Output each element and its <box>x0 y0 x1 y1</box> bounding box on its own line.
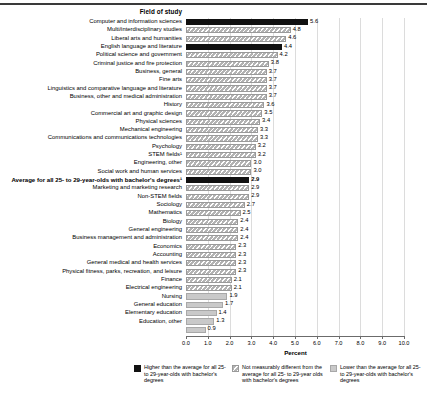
category-label: Engineering, other <box>0 159 182 167</box>
category-label: Social work and human services <box>0 168 182 176</box>
bar <box>186 85 267 91</box>
category-label: Finance <box>0 276 182 284</box>
bar <box>186 110 262 116</box>
gridline <box>295 18 296 336</box>
field-of-study-header: Field of study <box>0 8 182 15</box>
bar-value-label: 0.9 <box>208 325 216 333</box>
bar <box>186 102 264 108</box>
category-label: Sociology <box>0 201 182 209</box>
legend-swatch-lower-icon <box>330 365 337 372</box>
bar <box>186 310 217 316</box>
bar-value-label: 2.1 <box>234 284 242 292</box>
bar <box>186 252 236 258</box>
category-label: Commercial art and graphic design <box>0 110 182 118</box>
bar <box>186 202 245 208</box>
category-label: Physical sciences <box>0 118 182 126</box>
gridline <box>404 18 405 336</box>
bar-value-label: 3.3 <box>260 126 268 134</box>
category-label: Business, general <box>0 68 182 76</box>
bar-value-label: 2.4 <box>240 226 248 234</box>
legend-item-lower[interactable]: Lower than the average for all 25- to 29… <box>330 364 422 384</box>
bar <box>186 52 278 58</box>
bar-value-label: 3.7 <box>269 68 277 76</box>
x-tick <box>230 336 231 339</box>
category-label: Average for all 25- to 29-year-olds with… <box>0 176 182 184</box>
legend-item-higher[interactable]: Higher than the average for all 25- to 2… <box>134 364 226 384</box>
x-tick-label: 5.0 <box>284 340 306 346</box>
category-label: General medical and health services <box>0 259 182 267</box>
legend-label: Higher than the average for all 25- to 2… <box>144 364 226 384</box>
bar <box>186 36 286 42</box>
gridline <box>382 18 383 336</box>
category-label: Electrical engineering <box>0 284 182 292</box>
x-axis-title: Percent <box>186 349 405 356</box>
bar <box>186 227 238 233</box>
bar <box>186 77 267 83</box>
bar <box>186 152 256 158</box>
category-label: Nursing <box>0 293 182 301</box>
category-label: Political science and government <box>0 51 182 59</box>
bar-value-label: 3.2 <box>258 142 266 150</box>
bar <box>186 277 232 283</box>
x-tick-label: 3.0 <box>240 340 262 346</box>
category-label: Psychology <box>0 143 182 151</box>
category-label: Biology <box>0 218 182 226</box>
category-label: STEM fields¹ <box>0 151 182 159</box>
bar <box>186 285 232 291</box>
x-tick <box>208 336 209 339</box>
bar <box>186 144 256 150</box>
legend-item-same[interactable]: Not measurably different from the averag… <box>232 364 324 384</box>
bar <box>186 69 267 75</box>
category-label: Linguistics and comparative language and… <box>0 85 182 93</box>
x-tick-label: 8.0 <box>349 340 371 346</box>
bar-value-label: 3.7 <box>269 92 277 100</box>
x-tick-label: 2.0 <box>219 340 241 346</box>
category-label: Education, other <box>0 318 182 326</box>
gridline <box>317 18 318 336</box>
category-label: Criminal justice and fire protection <box>0 60 182 68</box>
x-tick-label: 10.0 <box>393 340 415 346</box>
bar <box>186 260 236 266</box>
top-divider <box>0 3 427 5</box>
category-label: Computer and information sciences <box>0 18 182 26</box>
bar-value-label: 1.3 <box>216 317 224 325</box>
x-tick-label: 4.0 <box>262 340 284 346</box>
bar-value-label: 3.5 <box>264 109 272 117</box>
legend-label: Not measurably different from the averag… <box>242 364 324 384</box>
bar <box>186 127 258 133</box>
category-label: Marketing and marketing research <box>0 184 182 192</box>
bar-value-label: 4.2 <box>280 51 288 59</box>
gridline <box>339 18 340 336</box>
bar-value-label: 3.3 <box>260 134 268 142</box>
x-tick <box>317 336 318 339</box>
category-label: General engineering <box>0 226 182 234</box>
bar-value-label: 3.7 <box>269 84 277 92</box>
bar <box>186 302 223 308</box>
legend-swatch-higher-icon <box>134 365 141 372</box>
bar-value-label: 3.0 <box>253 167 261 175</box>
bar-value-label: 2.3 <box>238 251 246 259</box>
category-label: Non-STEM fields <box>0 193 182 201</box>
legend-label: Lower than the average for all 25- to 29… <box>340 364 422 384</box>
bar-value-label: 2.4 <box>240 234 248 242</box>
bar <box>186 293 227 299</box>
x-tick-label: 1.0 <box>197 340 219 346</box>
bar-value-label: 4.6 <box>288 34 296 42</box>
bar <box>186 318 214 324</box>
x-tick <box>360 336 361 339</box>
bar-value-label: 3.0 <box>253 159 261 167</box>
bar-value-label: 3.8 <box>271 59 279 67</box>
x-tick-label: 0.0 <box>175 340 197 346</box>
bar <box>186 210 241 216</box>
category-label: Physical fitness, parks, recreation, and… <box>0 268 182 276</box>
category-label: General education <box>0 301 182 309</box>
bar-value-label: 2.5 <box>243 209 251 217</box>
x-tick <box>251 336 252 339</box>
bar-value-label: 2.7 <box>247 201 255 209</box>
x-tick-label: 9.0 <box>371 340 393 346</box>
bar-value-label: 3.7 <box>269 76 277 84</box>
x-tick-label: 6.0 <box>306 340 328 346</box>
plot-area: 5.64.84.64.44.23.83.73.73.73.73.63.53.43… <box>186 18 404 336</box>
x-tick <box>404 336 405 339</box>
x-tick-label: 7.0 <box>328 340 350 346</box>
